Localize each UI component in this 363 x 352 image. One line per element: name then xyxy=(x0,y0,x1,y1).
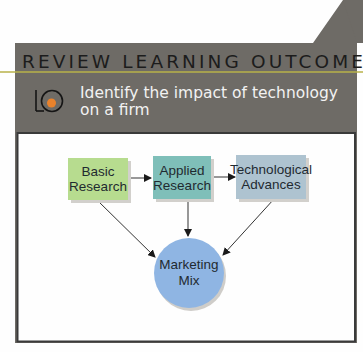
node-label-line: Mix xyxy=(159,273,218,289)
node-label-line: Basic xyxy=(69,164,127,179)
node-label-line: Advances xyxy=(230,177,312,192)
node-label-line: Marketing xyxy=(159,257,218,273)
node-marketing-mix: MarketingMix xyxy=(154,238,224,308)
page-title: REVIEW LEARNING OUTCOME xyxy=(22,51,363,72)
node-label-line: Research xyxy=(69,179,127,194)
node-basic-research: BasicResearch xyxy=(68,158,128,200)
right-margin xyxy=(357,43,363,352)
node-label-line: Technological xyxy=(230,162,312,177)
node-technological-advances: TechnologicalAdvances xyxy=(236,155,306,199)
bottom-margin xyxy=(0,343,363,352)
node-label-line: Applied xyxy=(153,163,211,178)
node-label-line: Research xyxy=(153,178,211,193)
learning-objective: Identify the impact of technology on a f… xyxy=(80,85,340,119)
node-applied-research: AppliedResearch xyxy=(153,156,211,199)
